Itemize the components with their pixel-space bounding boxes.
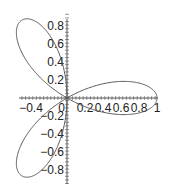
x-tick-label: 0.6 — [113, 101, 130, 115]
y-tick-label: 0.2 — [47, 73, 64, 87]
x-tick-label: 0.2 — [77, 101, 94, 115]
y-tick-label: −0.2 — [40, 109, 64, 123]
y-tick-label: 0.6 — [47, 37, 64, 51]
polar-rose-chart: −0.400.20.40.60.810.80.60.40.2−0.2−0.4−0… — [0, 0, 170, 194]
x-tick-label: 1 — [154, 101, 161, 115]
chart-svg: −0.400.20.40.60.810.80.60.40.2−0.2−0.4−0… — [0, 0, 170, 194]
y-tick-label: 0.8 — [47, 19, 64, 33]
y-tick-label: −0.8 — [40, 163, 64, 177]
